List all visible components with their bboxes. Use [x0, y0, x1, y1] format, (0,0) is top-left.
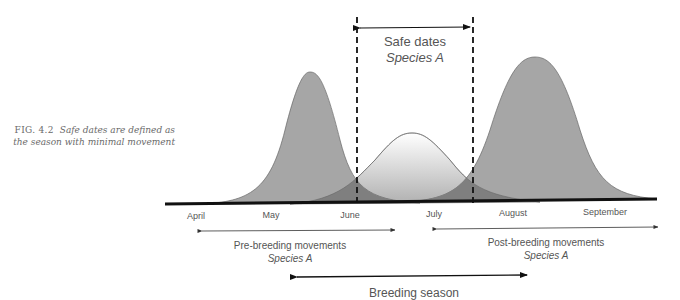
post-breeding-title: Post-breeding movements: [488, 237, 605, 248]
month-june: June: [340, 210, 360, 220]
pre-breeding-species: Species A: [268, 253, 313, 264]
month-may: May: [262, 210, 280, 220]
breeding-season-arrow: [297, 275, 527, 277]
month-september: September: [583, 207, 627, 217]
month-april: April: [187, 211, 205, 221]
breeding-season-title: Breeding season: [369, 286, 459, 300]
safe-dates-species: Species A: [386, 50, 444, 65]
safe-dates-arrow: [360, 27, 470, 28]
safe-dates-title: Safe dates: [384, 34, 447, 49]
month-july: July: [426, 209, 443, 219]
post-breeding-species: Species A: [524, 250, 569, 261]
movement-diagram: Safe dates Species A April May June July…: [0, 0, 680, 300]
post-breeding-arrow: [437, 227, 658, 229]
pre-breeding-arrow: [202, 230, 395, 231]
pre-breeding-title: Pre-breeding movements: [234, 240, 346, 251]
month-august: August: [499, 208, 528, 218]
